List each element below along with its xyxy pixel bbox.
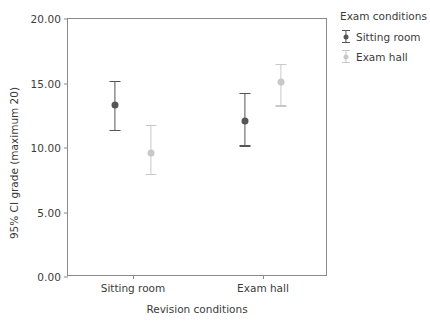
errorbar-cap-lower (146, 174, 157, 175)
data-point-errorbar (109, 81, 121, 130)
y-axis-tick-label: 0.00 (37, 271, 68, 283)
legend-label: Sitting room (356, 31, 421, 43)
legend: Exam conditions Sitting room Exam hall (340, 10, 430, 69)
data-point-marker (278, 79, 285, 86)
data-point-marker (242, 117, 249, 124)
y-axis-title: 95% CI grade (maximum 20) (8, 48, 20, 278)
errorbar-cap-upper (240, 93, 251, 94)
errorbar-cap-lower (276, 105, 287, 106)
legend-label: Exam hall (356, 51, 408, 63)
y-axis-tick-label: 10.00 (30, 142, 68, 154)
errorbar-marker-icon (340, 49, 351, 64)
errorbar-cap-lower (110, 130, 121, 131)
data-point-errorbar (275, 64, 287, 105)
y-axis-tick-label: 20.00 (30, 13, 68, 25)
errorbar-cap-lower (240, 145, 251, 146)
x-axis-tick-mark (133, 275, 134, 279)
legend-item-exam-hall[interactable]: Exam hall (340, 49, 430, 64)
errorbar-cap-upper (146, 125, 157, 126)
data-point-marker (112, 102, 119, 109)
x-axis-tick-mark (263, 275, 264, 279)
x-axis-title: Revision conditions (67, 303, 327, 315)
y-axis-tick-label: 5.00 (37, 207, 68, 219)
legend-item-sitting-room[interactable]: Sitting room (340, 29, 430, 44)
data-point-errorbar (239, 93, 251, 146)
data-point-marker (148, 150, 155, 157)
chart-container: 95% CI grade (maximum 20) 0.005.0010.001… (0, 0, 430, 325)
legend-title: Exam conditions (340, 10, 430, 22)
errorbar-marker-icon (340, 29, 351, 44)
errorbar-cap-upper (276, 64, 287, 65)
x-axis-tick-label: Sitting room (101, 282, 166, 294)
errorbar-cap-upper (110, 81, 121, 82)
x-axis-tick-label: Exam hall (237, 282, 289, 294)
data-point-errorbar (145, 125, 157, 174)
plot-area: 0.005.0010.0015.0020.00Sitting roomExam … (67, 18, 327, 276)
y-axis-tick-label: 15.00 (30, 78, 68, 90)
